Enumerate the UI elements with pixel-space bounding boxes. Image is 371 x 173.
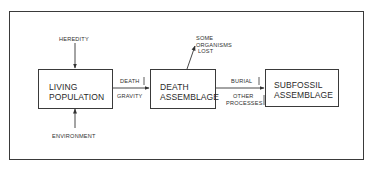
node-subfossil-line1: SUBFOSSIL: [274, 80, 323, 90]
node-death-line2: ASSEMBLAGE: [160, 92, 219, 102]
node-subfossil-line2: ASSEMBLAGE: [274, 90, 333, 100]
loss-label-line1: SOME: [196, 35, 213, 41]
edge-burial-label: BURIAL: [231, 78, 252, 84]
environment-label: ENVIRONMENT: [52, 133, 96, 139]
edge-processes-label: PROCESSES: [226, 100, 263, 106]
edge-death-label: DEATH: [120, 78, 140, 84]
node-subfossil-assemblage: SUBFOSSIL ASSEMBLAGE: [265, 69, 339, 107]
node-death-line1: DEATH: [160, 82, 189, 92]
heredity-label: HEREDITY: [59, 36, 89, 42]
edge-other-label: OTHER: [233, 93, 254, 99]
lost-arrow: [187, 46, 195, 69]
node-living-population: LIVING POPULATION: [38, 69, 113, 109]
node-death-assemblage: DEATH ASSEMBLAGE: [150, 69, 216, 109]
node-living-line2: POPULATION: [49, 92, 104, 102]
loss-label-line2: ORGANISMS: [196, 42, 232, 48]
edge-gravity-label: GRAVITY: [117, 93, 143, 99]
loss-label-line3: LOST: [198, 48, 213, 54]
node-living-line1: LIVING: [49, 82, 77, 92]
